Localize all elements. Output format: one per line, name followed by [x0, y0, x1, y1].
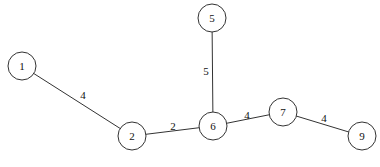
edge-weight-6-7: 4	[244, 109, 250, 121]
edge-1-2	[22, 66, 132, 136]
edge-weight-1-2: 4	[80, 89, 86, 101]
node-label-9: 9	[359, 130, 365, 142]
node-label-1: 1	[19, 60, 25, 72]
edge-weight-5-6: 5	[203, 65, 209, 77]
graph-canvas: 4 2 5 4 4 1 2 5 6 7 9	[0, 0, 380, 167]
node-2: 2	[118, 122, 146, 150]
node-1: 1	[8, 52, 36, 80]
node-label-5: 5	[209, 12, 215, 24]
node-7: 7	[269, 98, 297, 126]
node-9: 9	[348, 122, 376, 150]
node-label-6: 6	[210, 120, 216, 132]
node-label-7: 7	[280, 106, 286, 118]
edge-weight-7-9: 4	[321, 112, 327, 124]
node-6: 6	[199, 112, 227, 140]
edge-weight-2-6: 2	[170, 120, 176, 132]
edges	[22, 18, 362, 136]
node-5: 5	[198, 4, 226, 32]
edge-5-6	[212, 18, 213, 126]
node-label-2: 2	[129, 130, 135, 142]
